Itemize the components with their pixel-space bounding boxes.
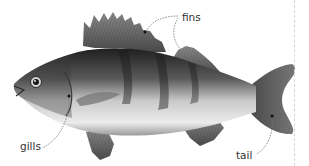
- tail-dot: [271, 115, 274, 118]
- label-gills: gills: [20, 141, 41, 152]
- fins-dot: [144, 31, 147, 34]
- gills-dot: [68, 95, 71, 98]
- dorsal-fin: [83, 12, 166, 52]
- fins-leader-second: [174, 18, 181, 50]
- tail-fin: [250, 64, 295, 134]
- fish-body: [14, 48, 256, 135]
- label-tail: tail: [236, 150, 252, 161]
- fish-illustration: [0, 0, 309, 166]
- fish-diagram: fins gills tail: [0, 0, 309, 166]
- fins-leader-dorsal: [146, 16, 178, 32]
- label-fins: fins: [182, 12, 201, 23]
- dashed-divider: [294, 0, 295, 166]
